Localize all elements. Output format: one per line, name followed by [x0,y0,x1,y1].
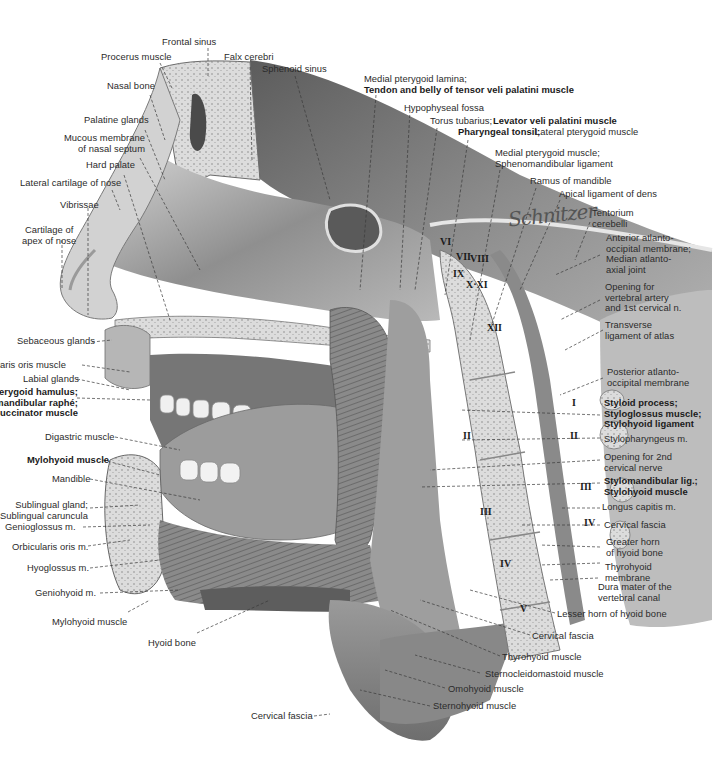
label-hard-palate: Hard palate [86,160,135,171]
label-sublingual-gland: Sublingual gland; Sublingual caruncula [0,500,88,521]
label-procerus-muscle: Procerus muscle [101,52,172,63]
cranial-nerve-vi: VI [440,236,451,247]
label-hyoglossus: Hyoglossus m. [27,563,89,574]
label-opening-vertebral-artery: Opening for vertebral artery and 1st cer… [605,282,682,314]
label-styloid-process: Styloid process; Styloglossus muscle; St… [604,398,701,430]
label-mylohyoid-muscle-bold: Mylohyoid muscle [27,455,109,466]
label-cervical-fascia-bottom: Cervical fascia [532,631,594,642]
cranial-nerve-x-xi: X·XI [466,279,488,290]
cranial-nerve-xii: XII [487,322,502,333]
label-tendon-tensor-veli-palatini: Tendon and belly of tensor veli palatini… [364,85,574,96]
vertebra-ii: II [463,430,471,441]
label-longus-capitis: Longus capitis m. [602,502,676,513]
label-nasal-bone: Nasal bone [107,81,155,92]
label-frontal-sinus: Frontal sinus [162,37,216,48]
label-opening-2nd-cervical: Opening for 2nd cervical nerve [604,452,672,473]
cranial-nerve-viii: VIII [470,253,489,264]
label-mandible: Mandible [52,474,90,485]
label-posterior-atlanto-occipital: Posterior atlanto- occipital membrane [607,367,689,388]
label-orbicularis-oris-muscle: Orbicularis oris muscle [0,360,66,371]
label-thyrohyoid-membrane: Thyrohyoid membrane [605,562,652,583]
label-palatine-glands: Palatine glands [84,115,149,126]
label-hypophyseal-fossa: Hypophyseal fossa [404,103,484,114]
label-greater-horn-hyoid: Greater horn of hyoid bone [606,537,663,558]
label-tentorium-cerebelli: Tentorium cerebelli [592,208,634,229]
label-ramus-of-mandible: Ramus of mandible [530,176,612,187]
label-medial-pterygoid-lamina: Medial pterygoid lamina; [364,74,467,85]
vertebra-iii: III [480,506,492,517]
label-stylomandibular: Stylomandibular lig.; Stylohyoid muscle [604,476,698,497]
label-sternocleidomastoid: Sternocleidomastoid muscle [485,669,604,680]
label-genioglossus: Genioglossus m. [5,522,76,533]
label-pharyngeal-tonsil: Pharyngeal tonsil; [458,127,540,138]
label-lateral-pterygoid: Lateral pterygoid muscle [535,127,638,138]
label-mylohyoid-muscle: Mylohyoid muscle [52,617,127,628]
cranial-nerve-ix: IX [453,268,464,279]
label-hyoid-bone: Hyoid bone [148,638,196,649]
label-anterior-atlanto-occipital: Anterior atlanto- occipital membrane; Me… [606,233,691,275]
posterior-arch-i: I [572,397,576,408]
label-orbicularis-oris-m: Orbicularis oris m. [12,542,88,553]
label-lesser-horn-hyoid: Lesser horn of hyoid bone [557,609,667,620]
label-omohyoid: Omohyoid muscle [448,684,524,695]
vertebra-v: V [520,603,527,614]
label-pterygoid-hamulus: Pterygoid hamulus; Pterygomandibular rap… [0,387,78,419]
label-sternohyoid: Sternohyoid muscle [433,701,516,712]
label-cervical-fascia-right: Cervical fascia [604,520,666,531]
posterior-arch-ii: II [570,430,578,441]
label-sebaceous-glands: Sebaceous glands [17,336,95,347]
label-torus-tubarius: Torus tubarius; [430,116,492,127]
label-medial-pterygoid-muscle: Medial pterygoid muscle; Sphenomandibula… [495,148,613,169]
vertebra-iv: IV [500,558,511,569]
label-cervical-fascia-bottom-left: Cervical fascia [251,711,313,722]
posterior-arch-iii: III [580,481,592,492]
label-lateral-cartilage-nose: Lateral cartilage of nose [20,178,121,189]
label-labial-glands: Labial glands [23,374,79,385]
label-falx-cerebri: Falx cerebri [224,52,274,63]
label-stylopharyngeus: Stylopharyngeus m. [604,434,688,445]
label-sphenoid-sinus: Sphenoid sinus [262,64,327,75]
posterior-arch-iv: IV [584,517,595,528]
anatomy-figure: Schnitzer Frontal sinus Procerus muscle … [0,0,725,769]
label-apical-ligament: Apical ligament of dens [559,189,657,200]
label-mucous-membrane-septum: Mucous membrane of nasal septum [64,133,145,154]
label-geniohyoid: Geniohyoid m. [35,588,96,599]
cranial-nerve-vii: VII [456,251,471,262]
label-dura-mater: Dura mater of the vertebral canal [598,582,672,603]
label-vibrissae: Vibrissae [60,200,99,211]
label-digastric-muscle: Digastric muscle [45,432,115,443]
label-thyrohyoid-muscle: Thyrohyoid muscle [502,652,582,663]
label-cartilage-apex-nose: Cartilage of apex of nose [22,225,76,246]
label-levator-veli-palatini: Levator veli palatini muscle [493,116,617,127]
label-transverse-ligament: Transverse ligament of atlas [605,320,674,341]
